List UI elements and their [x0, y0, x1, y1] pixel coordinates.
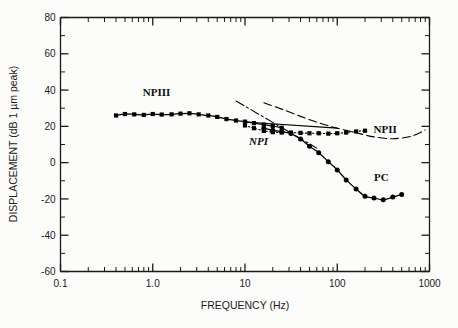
data-point-marker — [132, 112, 136, 116]
data-point-marker — [317, 131, 321, 135]
data-point-marker — [206, 113, 210, 117]
data-point-marker — [197, 112, 201, 116]
data-point-marker — [151, 112, 155, 116]
y-axis-tick-label: -40 — [41, 230, 56, 241]
annotation-npi: NPI — [248, 135, 269, 147]
data-point-marker — [390, 195, 395, 200]
tick-labels-layer: 0.11.0101001000806040200-20-40-60 — [41, 12, 441, 288]
x-axis-tick-label: 10 — [239, 278, 251, 289]
figure-container: DISPLACEMENT (dB 1 µm peak) FREQUENCY (H… — [0, 0, 458, 328]
y-axis-title-group: DISPLACEMENT (dB 1 µm peak) — [7, 66, 19, 222]
y-axis-tick-label: 80 — [44, 12, 56, 23]
data-point-marker — [261, 126, 266, 131]
y-axis-tick-label: 40 — [44, 85, 56, 96]
axes-layer — [61, 18, 430, 272]
x-axis-tick-label: 1.0 — [146, 278, 160, 289]
data-point-marker — [224, 117, 228, 121]
data-point-marker — [271, 124, 275, 128]
data-point-marker — [307, 131, 311, 135]
y-axis-tick-label: 0 — [50, 157, 56, 168]
data-point-marker — [270, 128, 275, 133]
data-series-layer — [114, 101, 425, 202]
data-point-marker — [234, 118, 238, 122]
data-point-marker — [307, 144, 312, 149]
y-axis-tick-label: 60 — [44, 48, 56, 59]
data-point-marker — [335, 131, 339, 135]
data-point-marker — [298, 131, 302, 135]
data-point-marker — [169, 112, 173, 116]
x-axis-title-group: FREQUENCY (Hz) — [201, 299, 289, 311]
series-line — [264, 128, 402, 200]
annotation-npii: NPII — [373, 123, 396, 135]
data-point-marker — [335, 167, 340, 172]
series-pc — [261, 126, 404, 203]
data-point-marker — [288, 131, 293, 136]
data-point-marker — [215, 115, 219, 119]
y-axis-tick-label: -60 — [41, 266, 56, 277]
data-point-marker — [381, 197, 386, 202]
data-point-marker — [187, 111, 191, 115]
annotation-pc: PC — [374, 171, 389, 183]
x-axis-tick-label: 100 — [329, 278, 346, 289]
x-axis-title: FREQUENCY (Hz) — [201, 299, 289, 311]
data-point-marker — [243, 123, 247, 127]
data-point-marker — [354, 186, 359, 191]
displacement-vs-frequency-chart: DISPLACEMENT (dB 1 µm peak) FREQUENCY (H… — [0, 0, 458, 328]
data-point-marker — [326, 132, 330, 136]
data-point-marker — [371, 196, 376, 201]
data-point-marker — [399, 192, 404, 197]
y-axis-title: DISPLACEMENT (dB 1 µm peak) — [7, 66, 19, 222]
data-point-marker — [178, 112, 182, 116]
data-point-marker — [142, 113, 146, 117]
data-point-marker — [252, 126, 256, 130]
data-point-marker — [160, 112, 164, 116]
x-axis-tick-label: 0.1 — [54, 278, 68, 289]
data-point-marker — [363, 194, 368, 199]
data-point-marker — [326, 159, 331, 164]
series-annotations-layer: NPIIINPINPIIPC — [143, 86, 397, 183]
x-axis-tick-label: 1000 — [418, 278, 441, 289]
annotation-npiii: NPIII — [143, 86, 171, 98]
y-axis-tick-label: -20 — [41, 194, 56, 205]
data-point-marker — [114, 113, 118, 117]
data-point-marker — [344, 177, 349, 182]
ticks-layer — [61, 18, 430, 272]
data-point-marker — [279, 129, 284, 134]
data-point-marker — [298, 137, 303, 142]
data-point-marker — [316, 150, 321, 155]
y-axis-tick-label: 20 — [44, 121, 56, 132]
data-point-marker — [123, 112, 127, 116]
series-npiii-extension — [245, 122, 337, 128]
series-line — [245, 122, 337, 128]
data-point-marker — [363, 129, 367, 133]
